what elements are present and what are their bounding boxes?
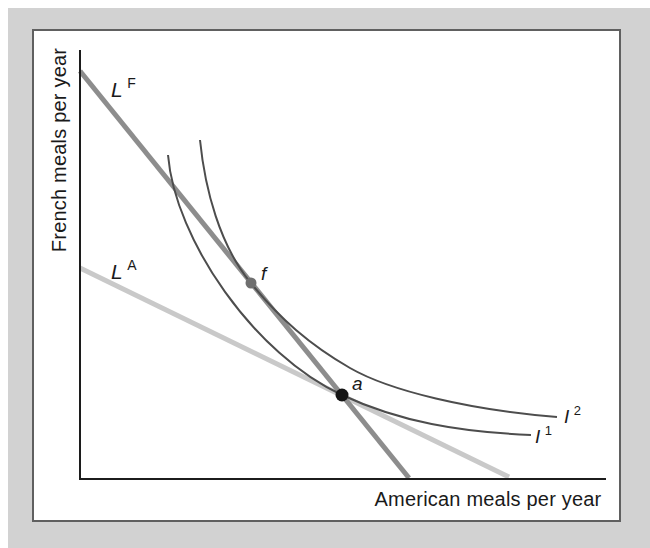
- label-la-base: L: [111, 260, 123, 283]
- label-point-a: a: [352, 373, 363, 394]
- label-i2-superscript: 2: [574, 403, 581, 418]
- label-i2-base: I: [564, 406, 570, 427]
- x-axis-title: American meals per year: [375, 488, 602, 510]
- figure-svg: French meals per year American meals per…: [0, 0, 650, 548]
- label-i1-base: I: [535, 426, 541, 447]
- point-a-dot: [336, 389, 349, 402]
- label-i1-superscript: 1: [545, 423, 552, 438]
- y-axis-title: French meals per year: [48, 48, 70, 252]
- label-lf-base: L: [111, 78, 123, 101]
- figure-page: French meals per year American meals per…: [0, 0, 650, 548]
- point-f-dot: [246, 278, 257, 289]
- label-lf-superscript: F: [127, 75, 136, 91]
- label-la-superscript: A: [127, 257, 137, 273]
